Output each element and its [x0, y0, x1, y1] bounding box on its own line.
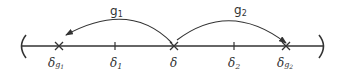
arrow-g2-label-index: 2 — [242, 9, 247, 18]
arrow-g1-label: g1 — [110, 4, 123, 19]
point-d2-label: δ2 — [228, 56, 240, 71]
arrow-g1 — [66, 19, 172, 43]
point-d1-label: δ1 — [110, 56, 122, 71]
arrow-g2-label: g2 — [234, 3, 247, 18]
point-dg1-label: δg1 — [48, 56, 64, 70]
arrow-g1-label-index: 1 — [118, 10, 123, 19]
arrow-g1-label-main: g — [110, 4, 118, 18]
arrow-g2 — [177, 21, 286, 43]
number-line-diagram: g1 g2 δg1 δ1 δ δ2 δg2 — [0, 0, 345, 81]
point-dg2-label: δg2 — [277, 56, 293, 70]
point-d-label: δ — [170, 56, 177, 70]
arrow-g2-label-main: g — [234, 3, 242, 17]
